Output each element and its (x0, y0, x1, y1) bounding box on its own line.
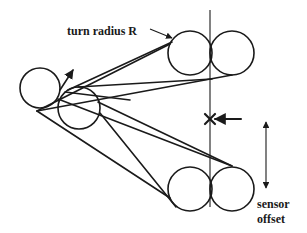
sensor-offset-label-line2: offset (257, 212, 285, 226)
bottom-right-circle (210, 167, 254, 211)
top-right-circle (210, 31, 254, 75)
sensor-offset-label-line1: sensor (257, 197, 290, 211)
direction-arrow (60, 70, 73, 90)
turn-radius-pointer (150, 29, 172, 38)
turn-radius-label: turn radius R (67, 24, 137, 38)
top-left-circle (168, 31, 212, 75)
